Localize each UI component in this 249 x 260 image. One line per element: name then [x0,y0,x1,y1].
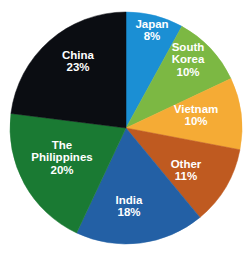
pie-chart-canvas: Japan8%SouthKorea10%Vietnam10%Other11%In… [0,0,249,260]
pie-slice-label: India18% [116,194,143,219]
pie-chart: Japan8%SouthKorea10%Vietnam10%Other11%In… [0,0,249,260]
pie-slice-label: Other11% [171,158,202,183]
